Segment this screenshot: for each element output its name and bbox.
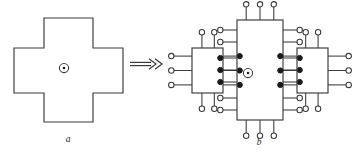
central-substructure-left-terminal-7-node-open <box>218 107 223 112</box>
central-substructure-top-terminal-2-node-open <box>257 2 262 7</box>
right-substructure-bottom-terminal-1-node-open <box>303 106 308 111</box>
central-substructure-left-terminal-1-node-open <box>218 27 223 32</box>
right-substructure-top-terminal-1-node-open <box>303 30 308 35</box>
central-substructure-reference-point-dot <box>247 72 250 75</box>
left-substructure-left-terminal-3-node-open <box>169 82 174 87</box>
panel-a-reference-point-dot <box>63 67 66 70</box>
technical-diagram: a b <box>0 0 359 154</box>
panel-b <box>169 2 352 139</box>
central-substructure-top-terminal-3-node-open <box>271 2 276 7</box>
central-substructure-right-terminal-6-node-open <box>297 95 302 100</box>
right-substructure-top-terminal-2-node-open <box>315 30 320 35</box>
left-substructure-top-terminal-2-node-open <box>212 30 217 35</box>
right-substructure-right-terminal-3-node-open <box>346 82 351 87</box>
central-substructure-bottom-terminal-1-node-open <box>244 133 249 138</box>
right-substructure-left-terminal-2-node-filled <box>278 68 283 73</box>
left-substructure-top-terminal-1-node-open <box>199 30 204 35</box>
right-substructure-right-terminal-2-node-open <box>346 68 351 73</box>
left-substructure-bottom-terminal-2-node-open <box>212 106 217 111</box>
left-substructure-left-terminal-2-node-open <box>169 68 174 73</box>
right-substructure-left-terminal-3-node-filled <box>278 82 283 87</box>
central-substructure-left-terminal-5-node-filled <box>218 79 223 84</box>
left-substructure-bottom-terminal-1-node-open <box>199 106 204 111</box>
left-substructure-left-terminal-1-node-open <box>169 53 174 58</box>
central-substructure-right-terminal-2-node-open <box>297 39 302 44</box>
central-substructure-right-terminal-1-node-open <box>297 27 302 32</box>
left-substructure-right-terminal-1-node-filled <box>237 54 242 59</box>
double-right-arrow <box>130 59 162 69</box>
central-substructure-top-terminal-1-node-open <box>244 2 249 7</box>
left-substructure-right-terminal-3-node-filled <box>237 82 242 87</box>
central-substructure-bottom-terminal-3-node-open <box>271 133 276 138</box>
panel-a-reference-point <box>59 63 68 72</box>
central-substructure-left-terminal-6-node-open <box>218 95 223 100</box>
central-substructure-left-terminal-4-node-filled <box>218 67 223 72</box>
panel-a <box>14 18 123 122</box>
right-substructure-left-terminal-1-node-filled <box>278 54 283 59</box>
central-substructure-right-terminal-7-node-open <box>297 107 302 112</box>
panel-b-caption: b <box>257 137 262 147</box>
central-substructure-right-terminal-4-node-filled <box>297 67 302 72</box>
central-substructure-left-terminal-3-node-filled <box>218 55 223 60</box>
right-substructure-bottom-terminal-2-node-open <box>315 106 320 111</box>
right-substructure-right-terminal-1-node-open <box>346 53 351 58</box>
central-substructure-left-terminal-2-node-open <box>218 39 223 44</box>
central-substructure-right-terminal-5-node-filled <box>297 79 302 84</box>
figure-canvas: a b <box>0 0 359 154</box>
arrow-head-1 <box>149 59 156 69</box>
panel-a-caption: a <box>66 134 71 144</box>
left-substructure-right-terminal-2-node-filled <box>237 68 242 73</box>
central-substructure-right-terminal-3-node-filled <box>297 55 302 60</box>
